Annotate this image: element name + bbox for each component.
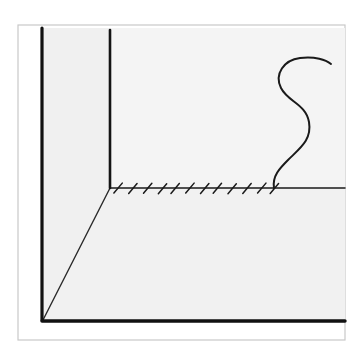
line-drawing xyxy=(0,0,364,364)
illustration-canvas xyxy=(0,0,364,364)
back-wall-panel xyxy=(110,28,345,188)
